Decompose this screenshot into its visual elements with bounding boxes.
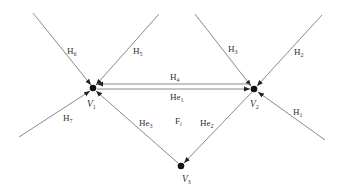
label-h2: H2 xyxy=(294,47,304,58)
label-h1: H1 xyxy=(293,107,303,118)
half-edge-diagram: H6 H5 H3 H2 H4 He1 H7 He3 He2 H1 Fi V1 V… xyxy=(0,0,339,194)
label-h3: H3 xyxy=(228,44,238,55)
label-he3: He3 xyxy=(139,118,153,129)
label-v1: V1 xyxy=(87,99,96,110)
label-h6: H6 xyxy=(67,46,77,57)
label-face: Fi xyxy=(175,116,182,127)
edge-h7 xyxy=(19,91,90,137)
label-h5: H5 xyxy=(133,46,143,57)
label-he1: He1 xyxy=(170,92,184,103)
label-h7: H7 xyxy=(63,113,73,124)
edge-h2 xyxy=(257,15,322,86)
edge-h3 xyxy=(195,14,251,86)
label-h4: H4 xyxy=(170,72,180,83)
label-v3: V3 xyxy=(182,174,191,185)
edge-h6 xyxy=(33,13,91,85)
vertex-v2 xyxy=(251,86,258,93)
vertex-v1 xyxy=(90,85,97,92)
edge-h1 xyxy=(258,92,325,140)
label-he2: He2 xyxy=(200,118,214,129)
edge-he3 xyxy=(96,91,178,163)
edge-he2 xyxy=(184,92,252,163)
label-v2: V2 xyxy=(250,99,259,110)
edge-h5 xyxy=(96,14,159,85)
vertex-v3 xyxy=(178,163,185,170)
